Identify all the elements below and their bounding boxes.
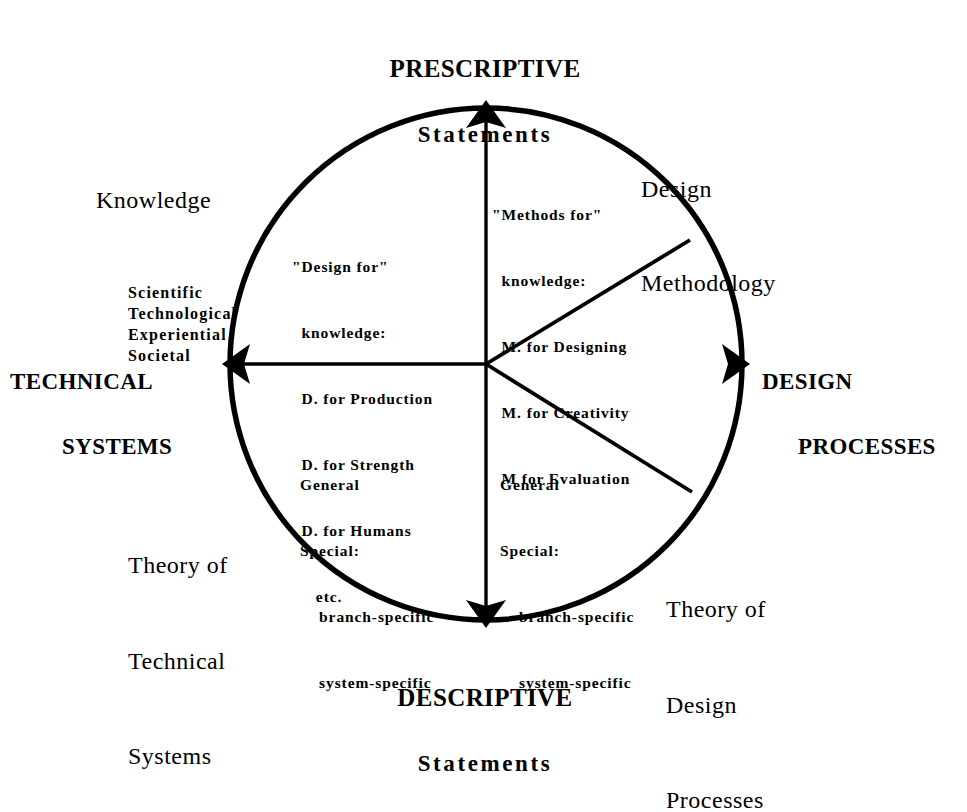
pole-label-prescriptive-line1: PRESCRIPTIVE (330, 54, 640, 84)
sector-text-methods-for-line3: M. for Designing (492, 336, 630, 358)
sector-text-general-special-right-line4: system-specific (500, 672, 634, 694)
corner-label-design-methodology-line1: Design (641, 174, 776, 205)
corner-label-knowledge: Knowledge Scientific Technological Exper… (96, 124, 237, 428)
sector-text-general-special-left-line2: Special: (300, 540, 434, 562)
sector-text-design-for-line3: D. for Production (292, 388, 433, 410)
sector-text-general-special-left-line4: system-specific (300, 672, 434, 694)
corner-label-theory-of-technical-systems-line1: Theory of (128, 550, 228, 582)
sector-text-methods-for-line1: "Methods for" (492, 204, 630, 226)
pole-label-design-processes-line1: DESIGN (762, 368, 967, 395)
corner-label-theory-of-design-processes-line2: Design (666, 690, 766, 722)
sector-text-design-for-line1: "Design for" (292, 256, 433, 278)
corner-label-theory-of-technical-systems-line3: Systems (128, 741, 228, 773)
sector-text-methods-for-line2: knowledge: (492, 270, 630, 292)
sector-text-general-special-left-line1: General (300, 474, 434, 496)
corner-label-knowledge-items: Scientific Technological Experiential So… (96, 278, 237, 367)
pole-label-prescriptive-line2: Statements (330, 121, 640, 148)
sector-text-design-for-line2: knowledge: (292, 322, 433, 344)
corner-label-theory-of-design-processes-line1: Theory of (666, 594, 766, 626)
corner-label-theory-of-technical-systems-line2: Technical (128, 646, 228, 678)
corner-label-theory-of-technical-systems: Theory of Technical Systems (128, 486, 228, 812)
sector-text-methods-for-line4: M. for Creativity (492, 402, 630, 424)
sector-text-general-special-right-line2: Special: (500, 540, 634, 562)
corner-label-design-methodology: Design Methodology (641, 112, 776, 362)
corner-label-theory-of-design-processes: Theory of Design Processes (666, 530, 766, 812)
pole-label-technical-systems-line2: SYSTEMS (10, 433, 230, 460)
sector-text-general-special-right-line3: branch-specific (500, 606, 634, 628)
sector-text-general-special-right: General Special: branch-specific system-… (500, 430, 634, 738)
corner-label-theory-of-design-processes-line3: Processes (666, 785, 766, 812)
pole-label-descriptive-line2: Statements (330, 750, 640, 777)
sector-text-general-special-right-line1: General (500, 474, 634, 496)
corner-label-knowledge-heading: Knowledge (96, 185, 237, 216)
corner-label-design-methodology-line2: Methodology (641, 268, 776, 299)
pole-label-design-processes: DESIGN PROCESSES (762, 330, 967, 498)
sector-text-general-special-left: General Special: branch-specific system-… (300, 430, 434, 738)
pole-label-design-processes-line2: PROCESSES (762, 433, 967, 460)
sector-text-general-special-left-line3: branch-specific (300, 606, 434, 628)
